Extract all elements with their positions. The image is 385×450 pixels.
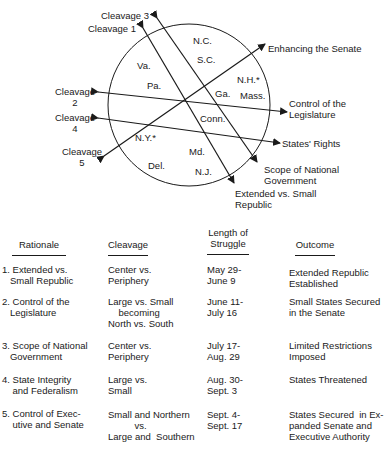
state-sc: S.C. bbox=[197, 54, 215, 65]
row-1-cleavage: Center vs. Periphery bbox=[108, 264, 151, 286]
label-enhancing-senate: Enhancing the Senate bbox=[268, 43, 362, 54]
label-scope-national-government: Scope of National Government bbox=[264, 164, 339, 186]
label-extended-small-republic: Extended vs. Small Republic bbox=[235, 188, 316, 210]
state-va: Va. bbox=[137, 60, 151, 71]
states-circle bbox=[108, 24, 270, 186]
row-5-cleavage: Small and Northern vs. Large and Souther… bbox=[108, 409, 195, 442]
row-4-rationale: 4. State Integrity and Federalism bbox=[2, 374, 78, 396]
row-4-length: Aug. 30- Sept. 3 bbox=[207, 374, 243, 396]
label-cleavage-1: Cleavage 1 bbox=[88, 23, 136, 34]
row-3-rationale: 3. Scope of National Government bbox=[2, 340, 88, 362]
header-underline bbox=[108, 255, 148, 256]
label-cleavage-2: Cleavage 2 bbox=[54, 86, 96, 108]
row-5-length: Sept. 4- Sept. 17 bbox=[207, 409, 242, 431]
state-mass: Mass. bbox=[240, 90, 265, 101]
row-5-outcome: States Secured in Ex- panded Senate and … bbox=[289, 409, 384, 442]
row-4-cleavage: Large vs. Small bbox=[108, 374, 147, 396]
row-4-outcome: States Threatened bbox=[289, 374, 367, 385]
header-underline bbox=[295, 255, 335, 256]
state-conn: Conn. bbox=[200, 113, 225, 124]
row-2-rationale: 2. Control of the Legislature bbox=[2, 296, 70, 318]
row-3-outcome: Limited Restrictions Imposed bbox=[289, 340, 372, 362]
state-nh: N.H.* bbox=[237, 74, 260, 85]
state-md: Md. bbox=[189, 146, 205, 157]
label-cleavage-3: Cleavage 3 bbox=[101, 10, 149, 21]
header-cleavage: Cleavage bbox=[108, 239, 148, 256]
header-outcome: Outcome bbox=[295, 239, 335, 256]
row-2-cleavage: Large vs. Small becoming North vs. South bbox=[108, 296, 173, 329]
row-3-length: July 17- Aug. 29 bbox=[207, 340, 240, 362]
row-3-cleavage: Center vs. Periphery bbox=[108, 340, 151, 362]
state-ga: Ga. bbox=[215, 88, 230, 99]
row-2-length: June 11- July 16 bbox=[207, 296, 243, 318]
label-cleavage-5: Cleavage 5 bbox=[61, 146, 103, 168]
row-5-rationale: 5. Control of Exec- utive and Senate bbox=[2, 408, 84, 430]
cleavage-diagram: Cleavage 3 Cleavage 1 Cleavage 2 Cleavag… bbox=[0, 0, 385, 220]
state-nc: N.C. bbox=[193, 35, 212, 46]
header-underline bbox=[12, 255, 66, 256]
label-states-rights: States' Rights bbox=[282, 138, 340, 149]
header-length-of-struggle: Length of Struggle bbox=[207, 227, 249, 255]
row-1-length: May 29- June 9 bbox=[207, 264, 241, 286]
header-underline bbox=[207, 254, 249, 255]
label-control-legislature: Control of the Legislature bbox=[289, 98, 346, 120]
label-cleavage-4: Cleavage 4 bbox=[54, 112, 96, 134]
state-del: Del. bbox=[148, 160, 165, 171]
row-1-outcome: Extended Republic Established bbox=[289, 267, 369, 289]
state-ny: N.Y.* bbox=[135, 132, 156, 143]
header-rationale: Rationale bbox=[12, 239, 66, 256]
state-pa: Pa. bbox=[147, 80, 161, 91]
row-2-outcome: Small States Secured in the Senate bbox=[289, 296, 380, 318]
row-1-rationale: 1. Extended vs. Small Republic bbox=[2, 264, 73, 286]
state-nj: N.J. bbox=[195, 166, 212, 177]
arrow-cleavage-4-to-states-rights bbox=[98, 118, 280, 143]
